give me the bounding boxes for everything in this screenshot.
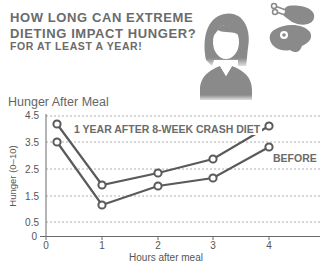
woman-avatar-icon xyxy=(200,13,252,100)
x-axis-label: Hours after meal xyxy=(129,252,203,263)
x-tick-label: 0 xyxy=(43,240,49,251)
y-tick-label: 0.5 xyxy=(25,217,39,228)
x-tick-label: 4 xyxy=(266,240,272,251)
series-markers-before xyxy=(53,138,272,208)
subheadline: FOR AT LEAST A YEAR! xyxy=(10,40,142,52)
series-label-before: BEFORE xyxy=(273,152,317,164)
headline-line-2: DIETING IMPACT HUNGER? xyxy=(10,26,196,42)
series-line-before xyxy=(57,142,269,205)
x-tick-labels: 0 1 2 3 4 xyxy=(43,240,272,251)
x-tick-label: 1 xyxy=(99,240,105,251)
x-tick-label: 2 xyxy=(155,240,161,251)
y-tick-label: 2.5 xyxy=(25,164,39,175)
series-label-after-diet: 1 YEAR AFTER 8-WEEK CRASH DIET xyxy=(74,123,261,135)
headline: HOW LONG CAN EXTREME DIETING IMPACT HUNG… xyxy=(10,10,196,41)
truncated-caption xyxy=(8,270,318,277)
steak-icon xyxy=(270,25,311,52)
chicken-leg-icon xyxy=(272,4,315,25)
y-tick-label: 4.5 xyxy=(25,110,39,121)
headline-line-1: HOW LONG CAN EXTREME xyxy=(10,10,196,26)
y-tick-label: 0 xyxy=(31,231,37,242)
y-axis-label: Hunger (0–10) xyxy=(7,145,18,206)
x-tick-label: 3 xyxy=(210,240,216,251)
y-tick-label: 1.5 xyxy=(25,191,39,202)
line-chart: 4.5 3.5 2.5 1.5 0.5 0 0 1 2 3 4 Hours af… xyxy=(0,100,326,270)
illustration xyxy=(200,0,326,100)
y-tick-labels: 4.5 3.5 2.5 1.5 0.5 0 xyxy=(25,110,39,242)
y-tick-label: 3.5 xyxy=(25,137,39,148)
